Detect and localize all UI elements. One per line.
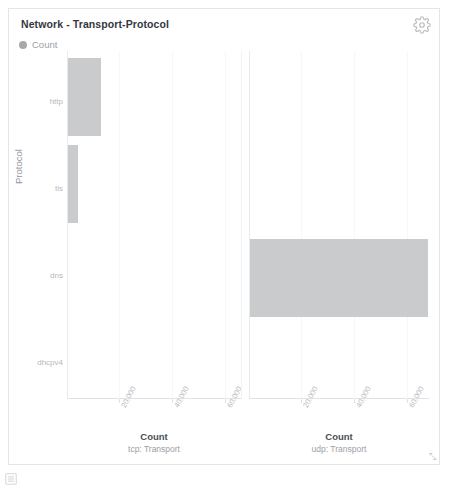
chart-area: Protocol http tls dns dhcpv4 20,000 40,0… <box>9 9 441 466</box>
visualization-panel: Network - Transport-Protocol Count Proto… <box>8 8 440 465</box>
bar-tcp-http[interactable] <box>68 58 101 136</box>
x-axis-title-tcp: Count <box>67 431 241 442</box>
gridline-udp-20000 <box>301 51 302 399</box>
x-axis-title-udp: Count <box>249 431 429 442</box>
gridline-tcp-60000 <box>225 51 226 399</box>
gridline-tcp-40000 <box>172 51 173 399</box>
gridline-tcp-20000 <box>119 51 120 399</box>
y-axis-title: Protocol <box>13 149 24 184</box>
y-axis-tick-labels: http tls dns dhcpv4 <box>27 9 63 466</box>
bar-udp-dns[interactable] <box>250 239 428 317</box>
facet-plot-tcp <box>67 51 241 399</box>
facet-plot-udp <box>249 51 429 399</box>
y-tick-dns: dns <box>50 271 63 280</box>
x-axis-tcp: 20,000 40,000 60,000 Count tcp: Transpor… <box>67 399 241 459</box>
y-axis-line-udp <box>249 51 250 399</box>
facet-label-udp: udp: Transport <box>249 444 429 454</box>
facet-label-tcp: tcp: Transport <box>67 444 241 454</box>
gridline-udp-40000 <box>354 51 355 399</box>
facet-divider <box>241 51 242 399</box>
resize-handle[interactable]: ⤡ <box>429 453 436 462</box>
y-tick-http: http <box>50 97 63 106</box>
x-axis-udp: 20,000 40,000 60,000 Count udp: Transpor… <box>249 399 429 459</box>
list-icon[interactable] <box>4 472 18 486</box>
y-tick-dhcpv4: dhcpv4 <box>37 358 63 367</box>
y-tick-tls: tls <box>55 184 63 193</box>
bar-tcp-tls[interactable] <box>68 145 78 223</box>
gridline-udp-60000 <box>407 51 408 399</box>
